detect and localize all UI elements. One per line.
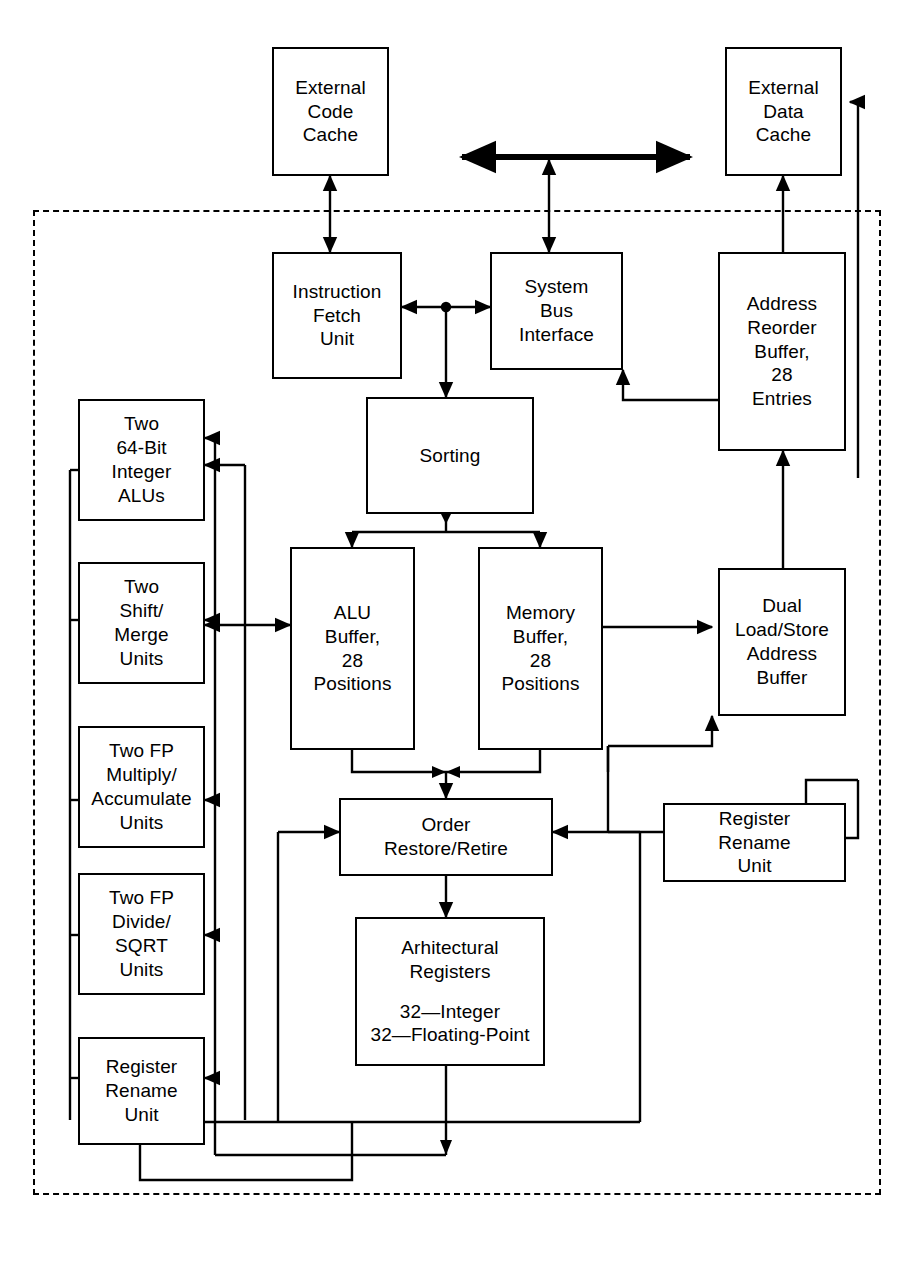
- block-sorting[interactable]: Sorting: [366, 397, 534, 514]
- block-label-line: ALU: [334, 601, 371, 625]
- block-register-rename-unit-right[interactable]: Register Rename Unit: [663, 803, 846, 882]
- block-label-line: Units: [120, 647, 164, 671]
- block-label-line: Two: [124, 575, 159, 599]
- block-alu-buffer[interactable]: ALU Buffer, 28 Positions: [290, 547, 415, 750]
- block-label-line: Register: [106, 1055, 178, 1079]
- block-label-line: Rename: [718, 831, 790, 855]
- block-label-line: Merge: [114, 623, 168, 647]
- block-external-data-cache[interactable]: External Data Cache: [725, 47, 842, 176]
- block-label-line: Registers: [409, 960, 490, 984]
- block-label-line: Fetch: [313, 304, 361, 328]
- block-label-line: Dual: [762, 594, 801, 618]
- block-two-64bit-integer-alus[interactable]: Two 64-Bit Integer ALUs: [78, 399, 205, 521]
- block-order-restore-retire[interactable]: Order Restore/Retire: [339, 798, 553, 876]
- block-label-line: Positions: [314, 672, 392, 696]
- block-label-line: Two FP: [109, 739, 174, 763]
- block-label-line: System: [525, 275, 589, 299]
- processor-block-diagram: External Code Cache External Data Cache …: [0, 0, 908, 1261]
- block-label-line: Buffer,: [325, 625, 380, 649]
- block-label-line: Cache: [756, 123, 811, 147]
- block-label-line: Order: [421, 813, 470, 837]
- block-label-line: Buffer,: [513, 625, 568, 649]
- block-label-line: Positions: [502, 672, 580, 696]
- block-label-line: 28: [530, 649, 551, 673]
- block-label-line: SQRT: [115, 934, 168, 958]
- block-register-rename-unit-left[interactable]: Register Rename Unit: [78, 1037, 205, 1145]
- block-label-line: Two: [124, 412, 159, 436]
- block-label-line: Shift/: [120, 599, 164, 623]
- block-label-line: 28: [771, 363, 792, 387]
- block-label-line: Entries: [752, 387, 812, 411]
- block-label-line: 32—Floating-Point: [370, 1023, 529, 1047]
- block-label-line: Accumulate: [91, 787, 191, 811]
- block-external-code-cache[interactable]: External Code Cache: [272, 47, 389, 176]
- block-dual-load-store-address-buffer[interactable]: Dual Load/Store Address Buffer: [718, 568, 846, 716]
- block-label-line: 32—Integer: [400, 1000, 500, 1024]
- block-label-line: Data: [763, 100, 804, 124]
- block-label-line: Cache: [303, 123, 358, 147]
- block-label-line: Instruction: [293, 280, 382, 304]
- block-label-line: Two FP: [109, 886, 174, 910]
- block-label-line: Bus: [540, 299, 573, 323]
- block-label-line: Units: [120, 958, 164, 982]
- block-label-line: 64-Bit: [116, 436, 166, 460]
- block-two-shift-merge-units[interactable]: Two Shift/ Merge Units: [78, 562, 205, 684]
- block-two-fp-divide-sqrt-units[interactable]: Two FP Divide/ SQRT Units: [78, 873, 205, 995]
- block-label-line: Units: [120, 811, 164, 835]
- block-label-line: Buffer: [757, 666, 808, 690]
- block-system-bus-interface[interactable]: System Bus Interface: [490, 252, 623, 370]
- block-label-line: Memory: [506, 601, 575, 625]
- block-label-line: External: [748, 76, 819, 100]
- block-label-line: Unit: [320, 327, 354, 351]
- block-label-line: Buffer,: [754, 340, 809, 364]
- block-architectural-registers[interactable]: Arhitectural Registers 32—Integer 32—Flo…: [355, 917, 545, 1066]
- block-label-line: Restore/Retire: [384, 837, 508, 861]
- block-label-line: Unit: [737, 854, 771, 878]
- block-label-line: Load/Store: [735, 618, 829, 642]
- block-label-line: Divide/: [112, 910, 171, 934]
- block-label-line: Address: [747, 642, 817, 666]
- block-label-line: Multiply/: [106, 763, 177, 787]
- block-label-line: Arhitectural: [401, 936, 498, 960]
- block-label-line: 28: [342, 649, 363, 673]
- block-label-line: ALUs: [118, 484, 165, 508]
- block-instruction-fetch-unit[interactable]: Instruction Fetch Unit: [272, 252, 402, 379]
- block-label-line: Unit: [124, 1103, 158, 1127]
- block-label-line: Rename: [105, 1079, 177, 1103]
- block-label-line: Reorder: [747, 316, 816, 340]
- block-label-line: Integer: [112, 460, 172, 484]
- block-label-line: Interface: [519, 323, 594, 347]
- block-two-fp-multiply-accumulate-units[interactable]: Two FP Multiply/ Accumulate Units: [78, 726, 205, 848]
- block-memory-buffer[interactable]: Memory Buffer, 28 Positions: [478, 547, 603, 750]
- block-address-reorder-buffer[interactable]: Address Reorder Buffer, 28 Entries: [718, 252, 846, 451]
- block-label-line: Sorting: [420, 444, 481, 468]
- block-label-line: Register: [719, 807, 791, 831]
- block-label-line: Code: [308, 100, 354, 124]
- block-label-line: Address: [747, 292, 817, 316]
- block-label-line: External: [295, 76, 366, 100]
